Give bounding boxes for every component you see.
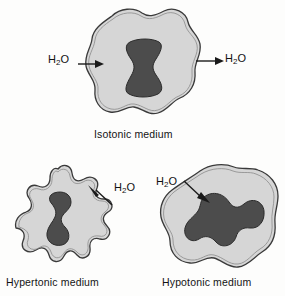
- caption-hypotonic: Hypotonic medium: [162, 276, 251, 288]
- caption-isotonic: Isotonic medium: [94, 128, 173, 140]
- isotonic-water-in-arrow: [78, 58, 104, 70]
- isotonic-water-out-label: H2O: [225, 52, 246, 66]
- hypotonic-water-in-arrow: [184, 179, 210, 203]
- osmosis-figure: H2O H2O Isotonic medium H2O Hypertonic m…: [0, 0, 285, 296]
- panel-hypotonic: H2O Hypotonic medium: [142, 155, 285, 296]
- hypertonic-cell: [14, 163, 114, 273]
- panel-isotonic: H2O H2O Isotonic medium: [0, 0, 285, 150]
- hypotonic-water-label: H2O: [156, 175, 177, 189]
- isotonic-water-in-label: H2O: [48, 53, 69, 67]
- hypertonic-water-out-arrow: [88, 185, 114, 207]
- hypertonic-water-label: H2O: [114, 181, 135, 195]
- isotonic-water-out-arrow: [196, 55, 224, 67]
- caption-hypertonic: Hypertonic medium: [6, 276, 99, 288]
- panel-hypertonic: H2O Hypertonic medium: [0, 155, 140, 296]
